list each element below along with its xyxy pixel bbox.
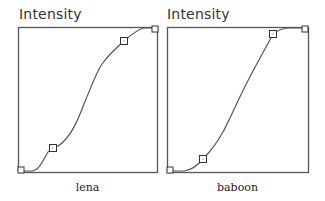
control-point-center: [124, 41, 125, 42]
control-point-handle[interactable]: [167, 167, 173, 173]
control-point-handle[interactable]: [18, 167, 24, 173]
curves-canvas: [0, 0, 325, 201]
control-point-center: [203, 159, 204, 160]
intensity-curve-lena[interactable]: [20, 28, 156, 171]
control-point-center: [273, 34, 274, 35]
intensity-curve-baboon[interactable]: [169, 28, 306, 171]
control-point-handle[interactable]: [152, 26, 158, 32]
control-point-handle[interactable]: [302, 26, 308, 32]
curve-box-lena: [19, 28, 158, 173]
control-point-center: [53, 148, 54, 149]
